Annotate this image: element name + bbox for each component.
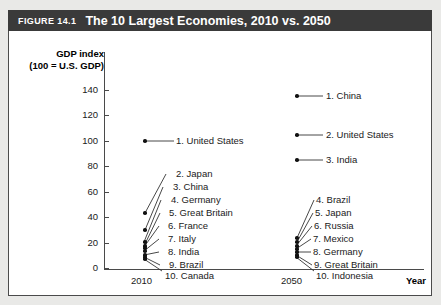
y-tick-label-20: 20: [70, 238, 98, 248]
x-tick-label-2050: 2050: [281, 275, 302, 286]
x-axis-caption: Year: [406, 275, 426, 286]
y-tick-label-0: 0: [70, 263, 98, 273]
data-point-2010-2: [143, 211, 147, 215]
y-tick-20: [104, 243, 109, 244]
figure-screenshot: FIGURE 14.1 The 10 Largest Economies, 20…: [0, 0, 441, 305]
y-tick-100: [104, 141, 109, 142]
figure-number-label: FIGURE 14.1: [18, 16, 76, 26]
data-point-2050-10: [295, 255, 299, 259]
y-tick-120: [104, 115, 109, 116]
y-tick-80: [104, 166, 109, 167]
point-label-2050-9: 9. Great Britain: [314, 260, 378, 270]
point-label-2010-3: 3. China: [173, 182, 208, 192]
y-tick-label-100: 100: [70, 136, 98, 146]
data-point-2010-7: [143, 249, 147, 253]
y-tick-140: [104, 90, 109, 91]
x-tick-label-2010: 2010: [131, 275, 152, 286]
point-label-2050-10: 10. Indonesia: [316, 271, 373, 281]
data-point-2050-2: [295, 133, 299, 137]
point-label-2010-8: 8. India: [168, 247, 199, 257]
point-label-2050-2: 2. United States: [326, 130, 394, 140]
point-label-2010-5: 5. Great Britain: [169, 208, 233, 218]
y-tick-0: [104, 268, 109, 269]
data-point-2050-5: [295, 240, 299, 244]
y-tick-label-40: 40: [70, 212, 98, 222]
point-label-2050-1: 1. China: [326, 91, 361, 101]
point-label-2010-9: 9. Brazil: [169, 260, 203, 270]
data-point-2050-1: [295, 94, 299, 98]
point-label-2050-8: 8. Germany: [313, 247, 363, 257]
data-point-2010-10: [143, 257, 147, 261]
point-label-2010-6: 6. France: [168, 221, 208, 231]
point-label-2050-3: 3. India: [326, 155, 357, 165]
y-tick-40: [104, 217, 109, 218]
y-tick-label-80: 80: [70, 161, 98, 171]
y-tick-label-60: 60: [70, 187, 98, 197]
data-point-2050-3: [295, 158, 299, 162]
data-point-2050-4: [295, 236, 299, 240]
point-label-2050-4: 4. Brazil: [316, 195, 350, 205]
point-label-2050-5: 5. Japan: [315, 208, 351, 218]
y-tick-label-120: 120: [70, 110, 98, 120]
point-label-2050-6: 6. Russia: [314, 221, 354, 231]
data-point-2010-4: [143, 240, 147, 244]
y-tick-60: [104, 192, 109, 193]
point-label-2010-4: 4. Germany: [171, 195, 221, 205]
point-label-2010-2: 2. Japan: [176, 169, 212, 179]
point-label-2050-7: 7. Mexico: [313, 234, 354, 244]
data-point-2010-3: [143, 228, 147, 232]
figure-title-label: The 10 Largest Economies, 2010 vs. 2050: [85, 14, 330, 28]
chart-plot-area: GDP index (100 = U.S. GDP) 140 120 100 8…: [8, 31, 432, 296]
data-point-2010-1: [143, 139, 147, 143]
point-label-2010-10: 10. Canada: [165, 271, 214, 281]
y-axis-line: [104, 52, 105, 270]
figure-title-bar: FIGURE 14.1 The 10 Largest Economies, 20…: [8, 10, 432, 31]
y-axis-title-line2: (100 = U.S. GDP): [10, 60, 104, 72]
point-label-2010-1: 1. United States: [176, 136, 244, 146]
point-label-2010-7: 7. Italy: [168, 234, 196, 244]
y-axis-title-line1: GDP index: [18, 48, 104, 60]
y-tick-label-140: 140: [70, 85, 98, 95]
